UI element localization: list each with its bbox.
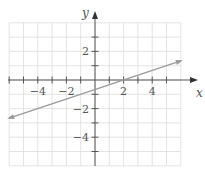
line-arrow-left-icon — [7, 114, 14, 119]
x-tick-label: 4 — [149, 85, 156, 98]
y-tick-label: 2 — [82, 45, 89, 58]
x-axis-arrow-icon — [190, 77, 198, 83]
y-tick-label: −2 — [73, 103, 89, 116]
x-tick-label: 2 — [120, 85, 127, 98]
x-tick-label: −2 — [58, 85, 74, 98]
coordinate-plane: −4−2242−2−4 x y — [0, 0, 205, 169]
y-axis-label: y — [81, 6, 89, 20]
y-axis-arrow-icon — [92, 11, 98, 19]
y-tick-label: −4 — [73, 131, 89, 144]
x-tick-label: −4 — [30, 85, 46, 98]
line-arrow-right-icon — [175, 60, 182, 65]
x-axis-label: x — [196, 86, 203, 100]
